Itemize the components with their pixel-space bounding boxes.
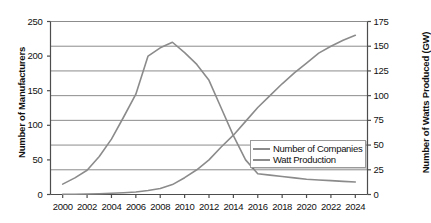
y-axis-left-tick-label: 150 — [17, 85, 43, 96]
y-axis-right-tick-label: 175 — [374, 16, 400, 27]
legend-item: Number of Companies — [253, 143, 362, 154]
y-axis-right-tick-label: 75 — [374, 114, 400, 125]
legend-item-label: Watt Production — [273, 154, 336, 165]
legend-item-label: Number of Companies — [273, 143, 362, 154]
x-axis-tick-label: 2024 — [340, 201, 370, 212]
y-axis-right-tick-label: 125 — [374, 65, 400, 76]
y-axis-right-tick-label: 0 — [374, 189, 400, 200]
y-axis-left-tick-label: 100 — [17, 119, 43, 130]
y-axis-left-tick-label: 50 — [17, 154, 43, 165]
chart-legend: Number of CompaniesWatt Production — [250, 140, 366, 168]
y-axis-right-tick-label: 25 — [374, 164, 400, 175]
y-axis-right-tick-label: 50 — [374, 139, 400, 150]
y-axis-left-tick-label: 250 — [17, 16, 43, 27]
y-axis-left-tick-label: 0 — [17, 189, 43, 200]
legend-color-swatch — [253, 159, 270, 161]
y-axis-left-tick-label: 200 — [17, 50, 43, 61]
legend-color-swatch — [253, 148, 270, 150]
y-axis-right-tick-label: 150 — [374, 40, 400, 51]
legend-item: Watt Production — [253, 154, 362, 165]
series-line-watt-production — [63, 35, 356, 194]
y-axis-right-tick-label: 100 — [374, 90, 400, 101]
